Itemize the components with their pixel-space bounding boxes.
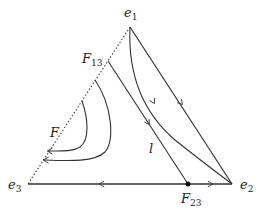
point-F23: [186, 182, 191, 187]
label-e2: e2: [240, 178, 253, 194]
label-l: l: [149, 142, 153, 155]
edge-e1-e2: [130, 27, 232, 184]
simplex-diagram: [0, 0, 262, 212]
invariant-line-l: [108, 61, 188, 184]
arrow-trajectory-e1-e2: [150, 95, 154, 103]
label-F13: F13: [82, 52, 102, 68]
label-e3: e3: [8, 178, 21, 194]
label-e1: e1: [124, 6, 137, 22]
label-F-face: F: [50, 126, 59, 139]
label-F23: F23: [181, 192, 201, 208]
